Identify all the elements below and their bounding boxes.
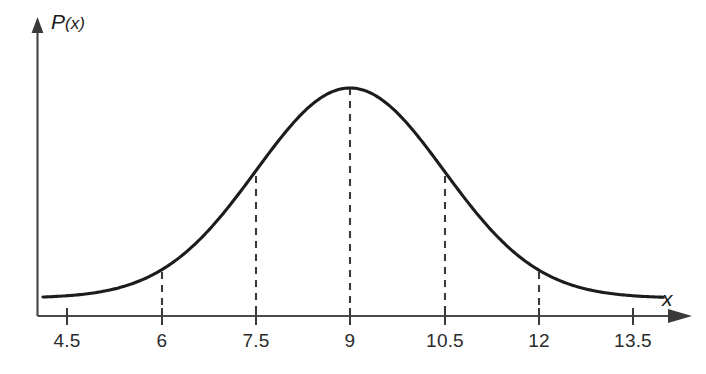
- y-axis-label-p: P: [51, 10, 65, 33]
- x-axis-arrowhead: [668, 309, 692, 323]
- normal-distribution-figure: P(x) x 4.5 6 7.5 9 10.5 12 13.5: [0, 0, 706, 374]
- x-tick-label-12: 12: [528, 330, 550, 352]
- x-tick-label-13.5: 13.5: [614, 330, 652, 352]
- y-axis: [32, 17, 44, 316]
- x-tick-label-4.5: 4.5: [53, 330, 80, 352]
- x-tick-label-9: 9: [345, 330, 356, 352]
- x-tick-label-6: 6: [157, 330, 168, 352]
- x-tick-label-10.5: 10.5: [426, 330, 464, 352]
- y-axis-label-arg: (x): [65, 14, 85, 33]
- x-axis: [38, 309, 693, 323]
- dashed-droplines: [162, 88, 539, 316]
- x-axis-label: x: [662, 287, 673, 311]
- bell-curve-path: [43, 88, 663, 297]
- plot-canvas: [0, 0, 706, 374]
- y-axis-arrowhead: [32, 17, 44, 33]
- y-axis-label: P(x): [51, 10, 85, 34]
- x-tick-label-7.5: 7.5: [242, 330, 269, 352]
